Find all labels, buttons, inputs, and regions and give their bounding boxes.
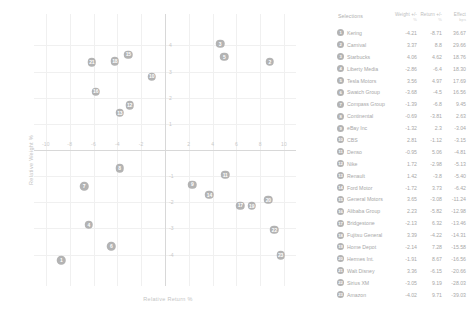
row-name: eBay Inc: [347, 125, 367, 131]
scatter-point[interactable]: 18: [110, 57, 119, 66]
scatter-point[interactable]: 22: [270, 226, 279, 235]
row-effect: -11.24: [438, 196, 466, 202]
scatter-point[interactable]: 11: [221, 171, 230, 180]
table-row[interactable]: 5Tesla Motors3.564.9717.69: [336, 75, 468, 87]
table-row[interactable]: 14Ford Motor-1.723.73-6.42: [336, 182, 468, 194]
table-row[interactable]: 4Liberty Media-2.86-6.418.30: [336, 63, 468, 75]
scatter-point[interactable]: 7: [80, 182, 89, 191]
scatter-point[interactable]: 3: [216, 40, 225, 49]
row-name: Walt Disney: [347, 268, 374, 274]
row-badge: 8: [337, 113, 344, 120]
y-axis-title: Relative Weight %: [28, 135, 34, 185]
scatter-point[interactable]: 6: [107, 242, 116, 251]
row-badge: 12: [337, 160, 344, 167]
scatter-point[interactable]: 2: [266, 58, 275, 67]
row-effect: -20.66: [438, 268, 466, 274]
y-tick-label: -3: [169, 225, 174, 231]
row-effect: 16.56: [438, 89, 466, 95]
row-name: Starbucks: [347, 54, 370, 60]
column-header-selections[interactable]: Selections: [338, 13, 363, 19]
table-row[interactable]: 1Kering-4.21-8.7136.67: [336, 27, 468, 39]
table-row[interactable]: 11Denso-0.955.06-4.81: [336, 146, 468, 158]
table-header-row: Selections Weight +/- % Return +/- % Eff…: [336, 10, 468, 27]
x-tick-label: -8: [67, 141, 72, 147]
column-header-return-unit: %: [418, 17, 442, 22]
scatter-point[interactable]: 5: [220, 53, 229, 62]
scatter-point[interactable]: 14: [205, 191, 214, 200]
scatter-point[interactable]: 17: [236, 201, 245, 210]
row-badge: 6: [337, 89, 344, 96]
row-name: Continental: [347, 113, 373, 119]
y-tick-label: 3: [169, 69, 172, 75]
row-effect: 2.63: [438, 113, 466, 119]
scatter-point[interactable]: 1: [57, 256, 66, 265]
x-tick-label: 6: [235, 141, 238, 147]
row-name: Sirius XM: [347, 280, 369, 286]
scatter-point[interactable]: 12: [125, 101, 134, 110]
x-tick-label: -10: [42, 141, 50, 147]
scatter-point[interactable]: 19: [247, 202, 256, 211]
row-effect: -13.46: [438, 220, 466, 226]
table-row[interactable]: 6Swatch Group-3.68-4.516.56: [336, 86, 468, 98]
scatter-point[interactable]: 8: [115, 164, 124, 173]
scatter-point[interactable]: 20: [264, 196, 273, 205]
selections-table-panel: Selections Weight +/- % Return +/- % Eff…: [336, 10, 468, 312]
table-row[interactable]: 18Fujitsu General3.39-4.22-14.31: [336, 229, 468, 241]
row-badge: 20: [337, 255, 344, 262]
table-row[interactable]: 17Bridgestone-2.136.32-13.46: [336, 217, 468, 229]
scatter-point[interactable]: 15: [124, 50, 133, 59]
column-header-weight[interactable]: Weight +/- %: [393, 12, 417, 22]
table-row[interactable]: 9eBay Inc-1.322.3-3.04: [336, 122, 468, 134]
table-row[interactable]: 7Compass Group-1.39-6.89.45: [336, 98, 468, 110]
row-effect: 29.66: [438, 42, 466, 48]
row-effect: -16.56: [438, 256, 466, 262]
table-row[interactable]: 22Sirius XM-3.059.19-28.03: [336, 277, 468, 289]
row-badge: 22: [337, 279, 344, 286]
table-row[interactable]: 23Amazon-4.029.71-39.03: [336, 289, 468, 301]
scatter-point[interactable]: 9: [188, 180, 197, 189]
column-header-return[interactable]: Return +/- %: [418, 12, 442, 22]
row-badge: 19: [337, 243, 344, 250]
table-row[interactable]: 2Carnival3.378.829.66: [336, 39, 468, 51]
table-row[interactable]: 3Starbucks4.064.6218.76: [336, 51, 468, 63]
table-row[interactable]: 8Continental-0.69-3.812.63: [336, 110, 468, 122]
x-tick-label: 8: [259, 141, 262, 147]
row-badge: 4: [337, 65, 344, 72]
row-name: Amazon: [347, 292, 366, 298]
table-row[interactable]: 19Home Depot-2.147.28-15.58: [336, 241, 468, 253]
scatter-point[interactable]: 16: [91, 87, 100, 96]
scatter-point[interactable]: 10: [147, 72, 156, 81]
table-row[interactable]: 12Nike1.72-2.98-5.13: [336, 158, 468, 170]
scatter-point[interactable]: 4: [85, 221, 94, 230]
row-name: Carnival: [347, 42, 366, 48]
row-badge: 13: [337, 172, 344, 179]
x-tick-label: -6: [91, 141, 96, 147]
attribution-scatter-page: -10-8-6-4-2246810-4-3-2-1123412345678910…: [0, 0, 468, 320]
row-badge: 2: [337, 41, 344, 48]
row-name: Ford Motor: [347, 185, 372, 191]
row-name: Bridgestone: [347, 220, 375, 226]
table-row[interactable]: 21Walt Disney3.36-6.15-20.66: [336, 265, 468, 277]
column-header-weight-unit: %: [393, 17, 417, 22]
scatter-point[interactable]: 13: [115, 109, 124, 118]
row-name: CBS: [347, 137, 358, 143]
row-name: Swatch Group: [347, 89, 380, 95]
table-row[interactable]: 10CBS2.81-1.12-3.15: [336, 134, 468, 146]
row-effect: 18.76: [438, 54, 466, 60]
y-tick-label: -1: [169, 173, 174, 179]
scatter-point[interactable]: 21: [88, 58, 97, 67]
row-name: Compass Group: [347, 101, 385, 107]
plot-area: -10-8-6-4-2246810-4-3-2-1123412345678910…: [34, 14, 296, 286]
row-effect: -12.98: [438, 208, 466, 214]
table-row[interactable]: 20Hermes Int.-1.918.67-16.56: [336, 253, 468, 265]
column-header-effect[interactable]: Effect bps: [443, 12, 466, 22]
row-effect: -28.03: [438, 280, 466, 286]
row-name: Liberty Media: [347, 66, 378, 72]
row-name: General Motors: [347, 196, 383, 202]
table-row[interactable]: 16Alibaba Group2.23-5.82-12.98: [336, 205, 468, 217]
x-axis-title: Relative Return %: [143, 296, 192, 302]
scatter-point[interactable]: 23: [276, 251, 285, 260]
table-row[interactable]: 15General Motors3.65-3.08-11.24: [336, 193, 468, 205]
table-row[interactable]: 13Renault1.42-3.8-5.40: [336, 170, 468, 182]
row-name: Kering: [347, 30, 362, 36]
